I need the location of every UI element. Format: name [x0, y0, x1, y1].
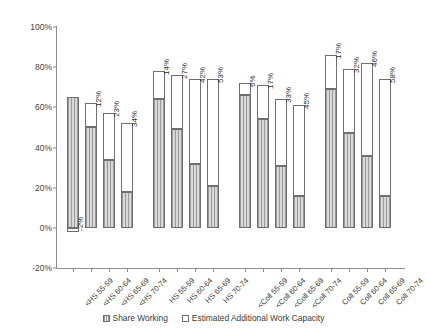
x-axis-tick-mark: [367, 268, 368, 272]
bar-segment-additional-capacity: [361, 63, 373, 155]
bar-chart: 100%80%60%40%20%0%-20% -2%12%23%34%14%27…: [0, 0, 427, 332]
bar: 14%: [153, 27, 165, 268]
bar-segment-additional-capacity: [189, 79, 201, 163]
legend-swatch-additional-capacity-icon: [182, 315, 189, 322]
bar: 46%: [361, 27, 373, 268]
y-axis-tick-label: -20%: [32, 263, 52, 273]
bar-segment-additional-capacity: [379, 79, 391, 195]
bar-segment-share-working: [207, 186, 219, 228]
bar: -2%: [67, 27, 79, 268]
x-axis-tick-mark: [159, 268, 160, 272]
legend-label-share-working: Share Working: [113, 313, 168, 323]
bar-segment-share-working: [257, 119, 269, 227]
bar-segment-share-working: [153, 99, 165, 228]
bar-segment-additional-capacity: [153, 71, 165, 99]
bar-segment-share-working: [293, 196, 305, 228]
bar: 23%: [103, 27, 115, 268]
bar: 17%: [257, 27, 269, 268]
bar-segment-additional-capacity: [325, 55, 337, 89]
bar: 33%: [275, 27, 287, 268]
y-axis-tick-label: 60%: [35, 102, 52, 112]
x-axis-tick-mark: [195, 268, 196, 272]
bar-segment-share-working: [121, 192, 133, 228]
y-axis-tick-label: 0%: [40, 223, 52, 233]
bar-segment-additional-capacity: [121, 123, 133, 191]
bar-segment-share-working: [171, 129, 183, 227]
y-axis-tick-mark: [53, 107, 57, 108]
legend-item-share-working: Share Working: [103, 313, 168, 323]
bar-segment-additional-capacity: [275, 99, 287, 165]
y-axis-tick-mark: [53, 268, 57, 269]
x-axis-tick-mark: [263, 268, 264, 272]
bar-segment-share-working: [239, 95, 251, 228]
bar-segment-share-working: [189, 164, 201, 228]
bar-data-label: 58%: [388, 67, 397, 83]
y-axis-tick-mark: [53, 27, 57, 28]
bar-segment-additional-capacity: [293, 105, 305, 195]
x-axis-tick-mark: [299, 268, 300, 272]
bar: 34%: [121, 27, 133, 268]
y-axis-tick-mark: [53, 67, 57, 68]
x-axis-tick-mark: [213, 268, 214, 272]
y-axis-tick-label: 100%: [30, 22, 52, 32]
bar: 17%: [325, 27, 337, 268]
bar-segment-additional-capacity: [171, 75, 183, 129]
bar-data-label: 34%: [130, 111, 139, 127]
x-axis-tick-mark: [349, 268, 350, 272]
bar-segment-additional-capacity: [207, 79, 219, 185]
x-axis-tick-mark: [127, 268, 128, 272]
bar-segment-share-working: [343, 133, 355, 227]
y-axis-tick-mark: [53, 227, 57, 228]
legend-item-additional-capacity: Estimated Additional Work Capacity: [182, 313, 325, 323]
y-axis-tick-mark: [53, 147, 57, 148]
bar-segment-additional-capacity: [103, 113, 115, 159]
bar-segment-share-working: [103, 160, 115, 228]
bar-segment-share-working: [85, 127, 97, 227]
bar-segment-share-working: [325, 89, 337, 228]
bar: 6%: [239, 27, 251, 268]
x-axis-tick-mark: [177, 268, 178, 272]
bar: 12%: [85, 27, 97, 268]
x-axis-tick-mark: [385, 268, 386, 272]
chart-legend: Share Working Estimated Additional Work …: [0, 313, 427, 323]
bar-segment-additional-capacity: [257, 85, 269, 119]
legend-label-additional-capacity: Estimated Additional Work Capacity: [192, 313, 325, 323]
bar-data-label: 45%: [302, 93, 311, 109]
bar: 58%: [379, 27, 391, 268]
bar: 32%: [343, 27, 355, 268]
bar: 27%: [171, 27, 183, 268]
y-axis-tick-label: 80%: [35, 62, 52, 72]
plot-area: 100%80%60%40%20%0%-20% -2%12%23%34%14%27…: [57, 27, 405, 268]
x-axis-tick-mark: [331, 268, 332, 272]
legend-swatch-share-working-icon: [103, 315, 110, 322]
x-axis-tick-mark: [281, 268, 282, 272]
x-axis-tick-mark: [91, 268, 92, 272]
y-axis-tick-mark: [53, 187, 57, 188]
bar-segment-share-working: [361, 156, 373, 228]
bar-data-label: 53%: [216, 67, 225, 83]
x-axis-tick-mark: [245, 268, 246, 272]
bar-segment-share-working: [275, 166, 287, 228]
x-axis-tick-mark: [109, 268, 110, 272]
bar: 45%: [293, 27, 305, 268]
bar-segment-share-working: [67, 97, 79, 228]
bar: 42%: [189, 27, 201, 268]
x-axis-tick-mark: [73, 268, 74, 272]
bar-segment-additional-capacity: [343, 69, 355, 133]
bar-segment-share-working: [379, 196, 391, 228]
y-axis-tick-label: 20%: [35, 183, 52, 193]
y-axis-tick-label: 40%: [35, 143, 52, 153]
bar: 53%: [207, 27, 219, 268]
